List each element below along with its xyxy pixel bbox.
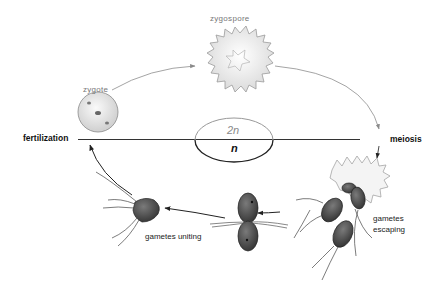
label-n: n [231,143,238,154]
zygospore-cell [207,26,274,92]
arrow-zygote-to-zygospore [112,66,195,90]
life-cycle-diagram: zygote zygospore fertilization meiosis 2… [0,0,445,281]
label-2n: 2n [227,125,239,136]
label-zygospore: zygospore [210,15,250,23]
arrow-fused-to-fertilization [90,145,132,195]
arrow-meiosis-down [377,146,379,158]
label-gametes-uniting: gametes uniting [145,233,201,241]
label-meiosis: meiosis [390,135,422,144]
arrow-zygospore-to-meiosis [275,66,379,129]
label-gametes-escaping-2: escaping [373,226,405,234]
label-zygote: zygote [83,86,108,94]
label-fertilization: fertilization [23,134,68,143]
arrow-uniting-to-fused [165,208,225,218]
label-gametes-escaping-1: gametes [373,215,404,223]
gametes-uniting-pair [210,193,288,251]
zygote-cell [78,92,118,132]
arrow-escaping-to-uniting [258,212,280,213]
